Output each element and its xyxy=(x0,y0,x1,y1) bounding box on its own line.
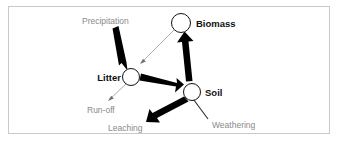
flux-label-run-off: Run-off xyxy=(87,106,115,115)
flux-arrow-weathering xyxy=(194,100,209,120)
flux-label-leaching: Leaching xyxy=(108,124,143,133)
node-soil[interactable] xyxy=(184,84,201,101)
flux-label-precipitation: Precipitation xyxy=(82,17,129,26)
nutrient-cycle-figure: Biomass Litter Soil Precipitation Run-of… xyxy=(0,0,339,146)
diagram-canvas xyxy=(0,0,339,146)
flux-arrow-run-off xyxy=(108,84,126,101)
flux-arrow-litter-to-soil xyxy=(140,74,185,93)
flux-arrow-leaching xyxy=(146,97,189,123)
flux-arrow-precipitation xyxy=(113,26,128,71)
node-biomass[interactable] xyxy=(172,14,191,33)
node-label-biomass: Biomass xyxy=(196,19,236,29)
node-label-soil: Soil xyxy=(205,88,222,98)
node-label-litter: Litter xyxy=(97,73,121,83)
flux-label-weathering: Weathering xyxy=(212,121,255,130)
flux-arrow-soil-to-biomass xyxy=(177,32,194,82)
flux-arrow-biomass-to-litter xyxy=(140,30,174,64)
node-litter[interactable] xyxy=(123,69,140,86)
